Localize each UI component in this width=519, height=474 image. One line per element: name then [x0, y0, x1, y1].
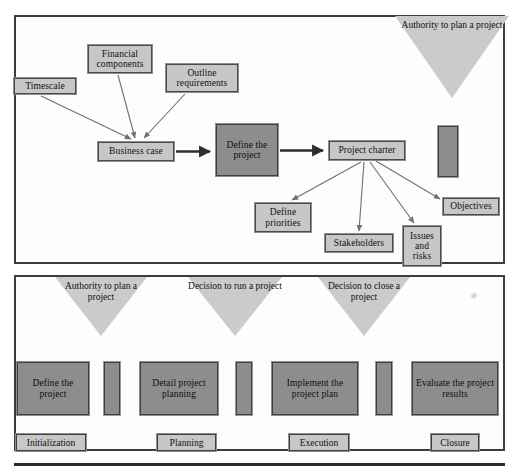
box-stakeholders: Stakeholders [325, 234, 393, 252]
box-issues-and-risks: Issues and risks [403, 226, 441, 266]
milestone-label: Decision to run a project [188, 281, 282, 292]
gateway-label: Authority to plan a project [395, 20, 509, 31]
box-define-priorities: Define priorities [255, 203, 311, 232]
box-label: Define the project [220, 140, 274, 160]
phase-label: Planning [170, 438, 204, 448]
box-business-case: Business case [98, 142, 174, 161]
box-label: Issues and risks [407, 231, 437, 261]
box-financial-components: Financial components [88, 45, 152, 73]
milestone-decision-to-run-a-project: Decision to run a project [188, 277, 282, 336]
box-label: Financial components [92, 49, 148, 69]
stage-detail-project-planning: Detail project planning [140, 362, 218, 415]
diagram-canvas: Authority to plan a project Timescale Fi… [0, 0, 519, 474]
phase-initialization: Initialization [16, 434, 86, 451]
phase-label: Initialization [27, 438, 76, 448]
box-label: Timescale [25, 81, 65, 91]
box-label: Project charter [338, 145, 395, 155]
stage-connector-bar-3 [376, 362, 392, 415]
box-label: Stakeholders [334, 238, 384, 248]
box-label: Objectives [450, 201, 492, 211]
gateway-authority-to-plan-a-project: Authority to plan a project [395, 16, 509, 98]
milestone-authority-to-plan-a-project: Authority to plan a project [55, 277, 147, 336]
phase-closure: Closure [431, 434, 479, 451]
box-label: Detail project planning [144, 378, 214, 398]
scan-artifact: ✺ [470, 292, 484, 318]
stage-connector-bar-2 [236, 362, 252, 415]
box-project-charter: Project charter [329, 141, 405, 160]
milestone-label: Authority to plan a project [55, 281, 147, 302]
box-outline-requirements: Outline requirements [166, 64, 238, 92]
box-label: Outline requirements [170, 68, 234, 88]
box-label: Define the project [21, 378, 85, 398]
top-connector-bar [438, 126, 458, 177]
phase-label: Closure [440, 438, 470, 448]
box-define-the-project: Define the project [216, 124, 278, 176]
stage-implement-the-project-plan: Implement the project plan [272, 362, 358, 415]
box-label: Define priorities [259, 207, 307, 227]
stage-define-the-project: Define the project [17, 362, 89, 415]
milestone-label: Decision to close a project [318, 281, 410, 302]
box-label: Business case [109, 146, 163, 156]
phase-execution: Execution [289, 434, 349, 451]
stage-evaluate-the-project-results: Evaluate the project results [412, 362, 498, 415]
phase-label: Execution [300, 438, 339, 448]
box-timescale: Timescale [14, 78, 76, 94]
phase-planning: Planning [157, 434, 216, 451]
box-objectives: Objectives [443, 198, 499, 215]
stage-connector-bar-1 [104, 362, 120, 415]
footer-rule [14, 463, 505, 466]
box-label: Evaluate the project results [416, 378, 494, 398]
milestone-decision-to-close-a-project: Decision to close a project [318, 277, 410, 336]
box-label: Implement the project plan [276, 378, 354, 398]
